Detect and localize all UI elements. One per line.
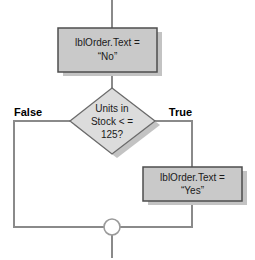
process-no-line1: lblOrder.Text = <box>75 37 140 48</box>
process-yes-line1: lblOrder.Text = <box>160 172 225 183</box>
node-merge-connector[interactable] <box>104 219 120 235</box>
flowchart-canvas: lblOrder.Text = “No” Units in Stock < = … <box>0 0 255 260</box>
branch-label-false: False <box>14 106 42 118</box>
merge-circle-icon <box>104 219 120 235</box>
connector-true-branch <box>155 121 192 167</box>
node-process-no[interactable]: lblOrder.Text = “No” <box>58 28 162 76</box>
branch-label-true: True <box>169 106 192 118</box>
process-yes-line2: “Yes” <box>181 185 204 196</box>
decision-line2: Stock < = <box>91 116 133 127</box>
decision-line3: 125? <box>101 129 124 140</box>
node-decision[interactable]: Units in Stock < = 125? <box>70 88 160 158</box>
node-process-yes[interactable]: lblOrder.Text = “Yes” <box>143 167 247 205</box>
process-no-line2: “No” <box>98 51 117 62</box>
decision-line1: Units in <box>95 103 128 114</box>
flowchart-svg: lblOrder.Text = “No” Units in Stock < = … <box>0 0 255 260</box>
